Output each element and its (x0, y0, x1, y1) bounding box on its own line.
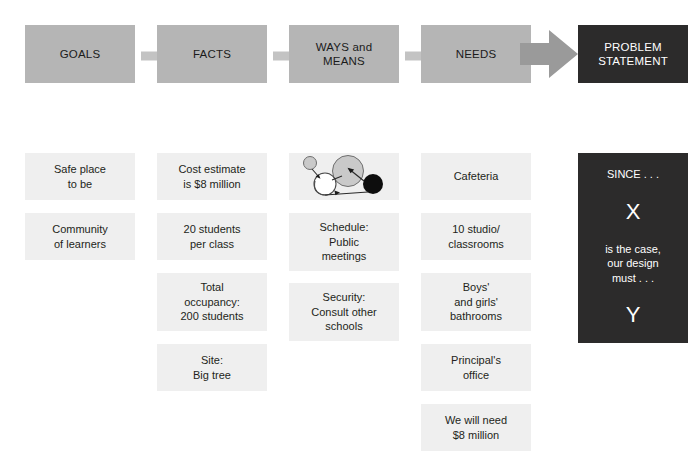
card-facts-2[interactable]: Total occupancy: 200 students (157, 273, 267, 331)
cards-needs: Cafeteria 10 studio/ classrooms Boys' an… (421, 83, 531, 433)
card-facts-3-text: Site: Big tree (193, 353, 231, 382)
column-facts: FACTS Cost estimate is $8 million 20 stu… (157, 25, 267, 423)
card-needs-3[interactable]: Principal's office (421, 344, 531, 391)
card-goals-1-text: Community of learners (52, 222, 108, 251)
card-needs-0[interactable]: Cafeteria (421, 153, 531, 200)
card-ways-1[interactable]: Schedule: Public meetings (289, 213, 399, 271)
header-ways-and-means[interactable]: WAYS and MEANS (289, 25, 399, 83)
cards-facts: Cost estimate is $8 million 20 students … (157, 83, 267, 423)
card-needs-3-text: Principal's office (451, 353, 501, 382)
card-needs-1-text: 10 studio/ classrooms (448, 222, 504, 251)
column-goals: GOALS Safe place to be Community of lear… (25, 25, 135, 423)
column-problem-statement: PROBLEM STATEMENT SINCE . . . X is the c… (578, 25, 688, 353)
header-problem-statement-label: PROBLEM STATEMENT (598, 40, 668, 68)
header-needs[interactable]: NEEDS (421, 25, 531, 83)
card-ways-2[interactable]: Security: Consult other schools (289, 283, 399, 341)
card-needs-2[interactable]: Boys' and girls' bathrooms (421, 273, 531, 331)
card-facts-2-text: Total occupancy: 200 students (181, 280, 244, 324)
problem-statement-panel[interactable]: SINCE . . . X is the case, our design mu… (578, 153, 688, 343)
card-needs-2-text: Boys' and girls' bathrooms (450, 280, 502, 324)
header-goals-label: GOALS (60, 47, 101, 61)
problem-statement-variable-y: Y (626, 303, 641, 327)
problem-statement-body: is the case, our design must . . . (605, 242, 661, 286)
card-ways-1-text: Schedule: Public meetings (320, 220, 369, 264)
problem-statement-since: SINCE . . . (607, 167, 659, 182)
header-facts-label: FACTS (193, 47, 231, 61)
column-needs: NEEDS Cafeteria 10 studio/ classrooms Bo… (421, 25, 531, 433)
card-goals-0[interactable]: Safe place to be (25, 153, 135, 200)
cards-goals: Safe place to be Community of learners (25, 83, 135, 423)
problem-statement-variable-x: X (626, 200, 641, 224)
card-facts-3[interactable]: Site: Big tree (157, 344, 267, 391)
cards-problem-statement: SINCE . . . X is the case, our design mu… (578, 83, 688, 353)
cards-ways-and-means: Schedule: Public meetings Security: Cons… (289, 83, 399, 423)
card-facts-1[interactable]: 20 students per class (157, 213, 267, 260)
header-ways-and-means-label: WAYS and MEANS (316, 40, 373, 68)
header-needs-label: NEEDS (456, 47, 497, 61)
header-goals[interactable]: GOALS (25, 25, 135, 83)
card-facts-0[interactable]: Cost estimate is $8 million (157, 153, 267, 200)
circles-and-arrows-icon (298, 154, 390, 199)
arrow-needs-to-problem (520, 30, 578, 78)
card-facts-1-text: 20 students per class (184, 222, 241, 251)
card-ways-2-text: Security: Consult other schools (311, 290, 376, 334)
card-needs-0-text: Cafeteria (454, 169, 499, 184)
card-goals-1[interactable]: Community of learners (25, 213, 135, 260)
column-ways-and-means: WAYS and MEANS (289, 25, 399, 423)
card-facts-0-text: Cost estimate is $8 million (178, 162, 245, 191)
card-ways-illustration[interactable] (289, 153, 399, 200)
card-goals-0-text: Safe place to be (54, 162, 106, 191)
header-problem-statement[interactable]: PROBLEM STATEMENT (578, 25, 688, 83)
card-needs-4[interactable]: We will need $8 million (421, 404, 531, 451)
card-needs-4-text: We will need $8 million (445, 413, 507, 442)
header-facts[interactable]: FACTS (157, 25, 267, 83)
card-needs-1[interactable]: 10 studio/ classrooms (421, 213, 531, 260)
